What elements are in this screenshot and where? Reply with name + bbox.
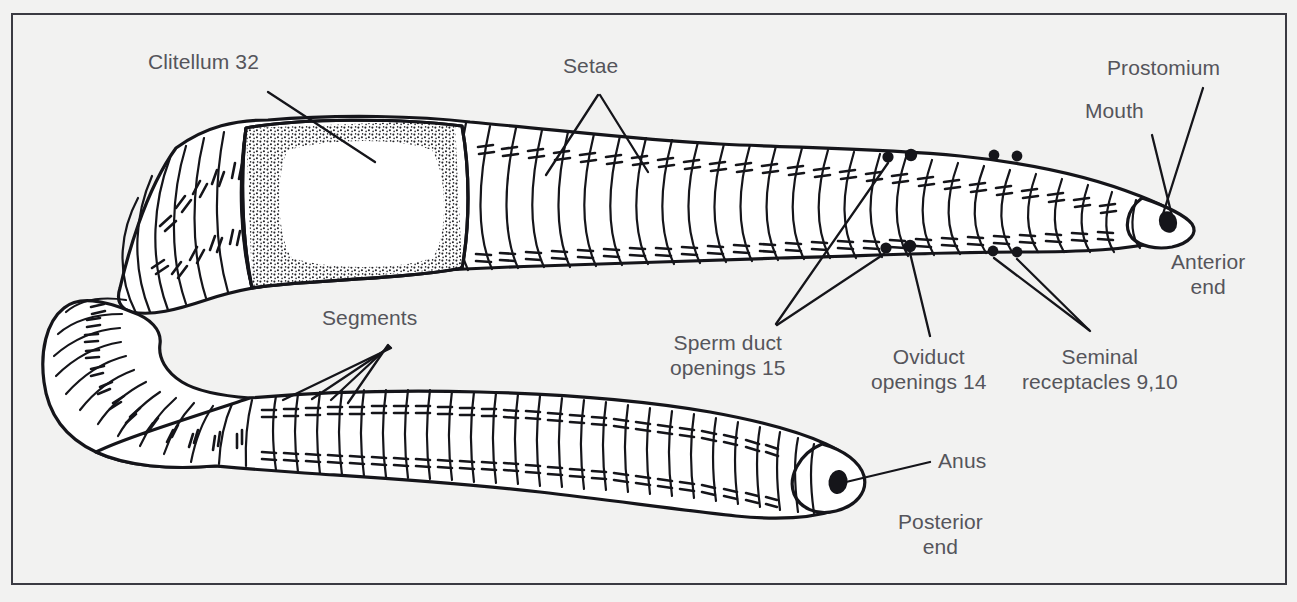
earthworm-illustration [0,0,1297,602]
label-posterior-end: Posterior end [898,509,983,559]
seminal-pore-dot-lower-a [988,246,999,257]
leader-sperm-duct-b [777,254,884,325]
leader-seminal-a [994,258,1089,330]
leader-prostomium [1163,88,1203,214]
label-mouth: Mouth [1085,98,1144,123]
leader-seminal-b [1017,259,1090,331]
sperm-duct-pore-dot-lower-a [880,242,891,253]
seminal-pore-dot-lower-b [1012,247,1023,258]
label-oviduct-openings: Oviduct openings 14 [871,344,987,394]
sperm-duct-pore-dot-upper-b [905,149,917,161]
label-anus: Anus [938,448,986,473]
seminal-pore-dot-upper-b [1012,151,1023,162]
label-segments: Segments [322,305,417,330]
label-sperm-duct-openings: Sperm duct openings 15 [670,330,786,380]
leader-oviduct [910,253,930,336]
sperm-duct-pore-dot-upper-a [882,151,893,162]
clitellum-shape [241,120,468,288]
label-prostomium: Prostomium [1107,55,1220,80]
earthworm-diagram-figure: Clitellum 32 Setae Prostomium Mouth Ante… [0,0,1297,602]
seminal-pore-dot-upper-a [989,150,1000,161]
label-setae: Setae [563,53,618,78]
label-clitellum: Clitellum 32 [148,49,259,74]
oviduct-pore-dot-lower [904,240,916,252]
label-anterior-end: Anterior end [1171,249,1245,299]
label-seminal-receptacles: Seminal receptacles 9,10 [1022,344,1178,394]
